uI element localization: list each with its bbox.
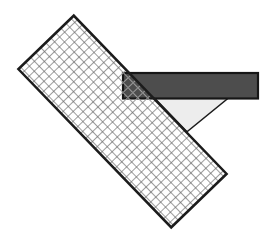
figure-canvas xyxy=(0,0,264,240)
geometry-figure-svg xyxy=(0,0,264,240)
geometry-figure xyxy=(0,0,264,240)
